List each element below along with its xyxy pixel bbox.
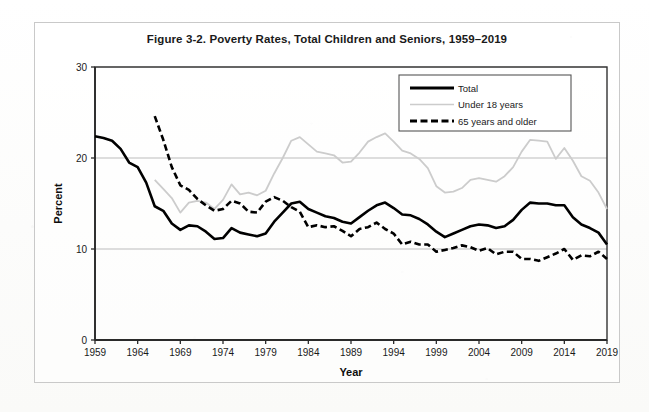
- x-tick-label-1984: 1984: [297, 347, 320, 358]
- series-line-under-18-years: [155, 133, 607, 212]
- data-series: [95, 116, 607, 261]
- legend-label-65-years-and-older: 65 years and older: [458, 116, 537, 127]
- x-tick-label-1959: 1959: [84, 347, 107, 358]
- x-tick-label-1994: 1994: [383, 347, 406, 358]
- x-tick-label-2014: 2014: [553, 347, 576, 358]
- x-tick-label-2004: 2004: [468, 347, 491, 358]
- x-tick-label-1974: 1974: [212, 347, 235, 358]
- figure-page: Figure 3-2. Poverty Rates, Total Childre…: [0, 0, 649, 412]
- x-tick-label-1999: 1999: [425, 347, 448, 358]
- x-tick-label-2009: 2009: [511, 347, 534, 358]
- poverty-rate-line-chart: 0102030 19591964196919741979198419891994…: [0, 0, 649, 412]
- y-tick-label-0: 0: [81, 335, 87, 346]
- x-axis-title: Year: [339, 366, 363, 378]
- y-tick-label-30: 30: [76, 62, 88, 73]
- x-tick-label-1989: 1989: [340, 347, 363, 358]
- y-tick-label-10: 10: [76, 244, 88, 255]
- chart-legend: TotalUnder 18 years65 years and older: [399, 75, 571, 131]
- legend-label-under-18-years: Under 18 years: [458, 99, 523, 110]
- x-tick-label-1969: 1969: [169, 347, 192, 358]
- x-tick-label-1964: 1964: [127, 347, 150, 358]
- y-axis-title: Percent: [52, 183, 64, 224]
- y-axis-ticks: 0102030: [76, 62, 95, 346]
- series-line-total: [95, 136, 607, 244]
- x-tick-label-1979: 1979: [255, 347, 278, 358]
- legend-label-total: Total: [458, 83, 478, 94]
- x-axis-ticks: 1959196419691974197919841989199419992004…: [84, 340, 619, 358]
- y-tick-label-20: 20: [76, 153, 88, 164]
- x-tick-label-2019: 2019: [596, 347, 619, 358]
